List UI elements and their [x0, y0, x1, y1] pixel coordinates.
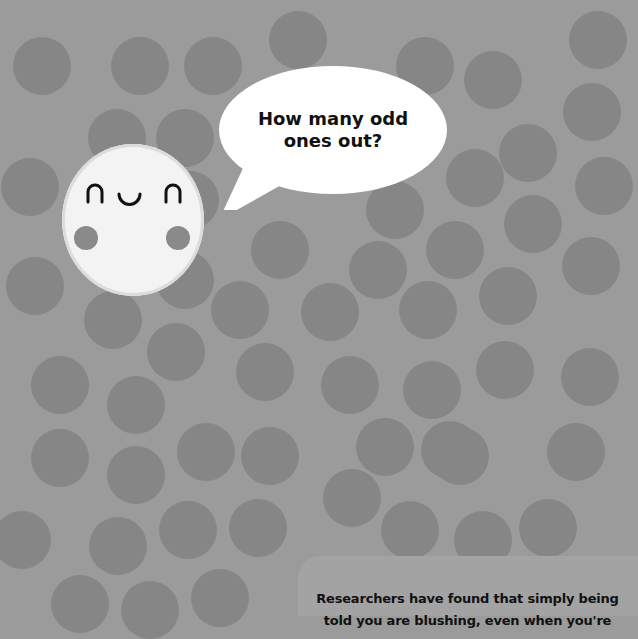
question-line-2: ones out?	[219, 130, 447, 152]
puzzle-circle	[562, 237, 620, 295]
smiling-face-character	[62, 144, 204, 296]
puzzle-circle	[31, 356, 89, 414]
puzzle-circle	[31, 429, 89, 487]
puzzle-circle	[431, 427, 489, 485]
fact-text: Researchers have found that simply being…	[310, 588, 625, 632]
puzzle-circle	[323, 469, 381, 527]
puzzle-circle	[446, 149, 504, 207]
puzzle-circle	[107, 376, 165, 434]
left-cheek	[74, 226, 98, 250]
speech-bubble-text: How many odd ones out?	[219, 108, 447, 152]
puzzle-circle	[499, 124, 557, 182]
puzzle-circle	[121, 581, 179, 639]
puzzle-circle	[84, 291, 142, 349]
right-cheek	[166, 226, 190, 250]
puzzle-circle	[426, 221, 484, 279]
puzzle-circle	[561, 348, 619, 406]
puzzle-circle	[191, 569, 249, 627]
puzzle-circle	[381, 501, 439, 559]
puzzle-circle	[269, 11, 327, 69]
puzzle-circle	[476, 341, 534, 399]
fact-line-2: told you are blushing, even when you're	[310, 610, 625, 632]
puzzle-circle	[563, 83, 621, 141]
puzzle-circle	[13, 37, 71, 95]
face-features-icon	[62, 144, 204, 296]
puzzle-circle	[177, 423, 235, 481]
puzzle-circle	[547, 423, 605, 481]
puzzle-circle	[519, 499, 577, 557]
puzzle-circle	[349, 241, 407, 299]
puzzle-circle	[251, 221, 309, 279]
puzzle-circle	[403, 361, 461, 419]
puzzle-circle	[159, 501, 217, 559]
puzzle-circle	[1, 158, 59, 216]
puzzle-circle	[111, 37, 169, 95]
puzzle-circle	[0, 511, 51, 569]
puzzle-circle	[107, 446, 165, 504]
puzzle-circle	[51, 575, 109, 633]
puzzle-circle	[575, 157, 633, 215]
puzzle-circle	[301, 283, 359, 341]
puzzle-circle	[6, 257, 64, 315]
puzzle-circle	[211, 281, 269, 339]
question-line-1: How many odd	[219, 108, 447, 130]
puzzle-circle	[236, 343, 294, 401]
puzzle-circle	[147, 323, 205, 381]
fact-line-1: Researchers have found that simply being	[310, 588, 625, 610]
puzzle-circle	[399, 281, 457, 339]
puzzle-circle	[241, 427, 299, 485]
puzzle-circle	[229, 499, 287, 557]
puzzle-circle	[321, 356, 379, 414]
puzzle-circle	[479, 267, 537, 325]
puzzle-circle	[464, 51, 522, 109]
puzzle-circle	[569, 11, 627, 69]
puzzle-circle	[504, 195, 562, 253]
puzzle-circle	[356, 418, 414, 476]
puzzle-circle	[89, 517, 147, 575]
